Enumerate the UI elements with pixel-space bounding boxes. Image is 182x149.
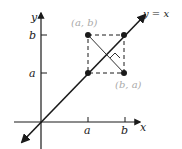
right-angle-marker	[110, 53, 120, 58]
point-b-b	[121, 32, 127, 38]
y-tick-label-b: b	[29, 29, 36, 42]
point-label-a-b: (a, b)	[71, 17, 98, 28]
x-axis-label: x	[140, 121, 147, 134]
x-tick-label-a: a	[84, 124, 91, 137]
x-tick-label-b: b	[121, 124, 128, 137]
reflection-diagram: y x b a a b y = x (a, b) (b, a)	[0, 0, 182, 149]
point-a-b	[85, 32, 91, 38]
point-a-a	[85, 70, 91, 76]
y-axis-label: y	[30, 11, 38, 24]
y-tick-label-a: a	[29, 67, 36, 80]
point-b-a	[121, 70, 127, 76]
line-label: y = x	[142, 8, 169, 19]
point-label-b-a: (b, a)	[115, 79, 142, 90]
